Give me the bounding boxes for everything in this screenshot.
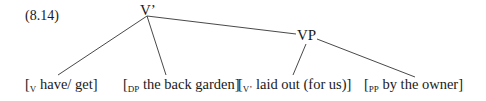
leaf-pp: [PP by the owner] xyxy=(364,77,463,94)
label-dp: DP xyxy=(128,84,140,94)
leaf-v-bar: [V’ laid out (for us)] xyxy=(238,77,351,94)
edge-vbar-v xyxy=(58,16,147,75)
edge-vp-pp xyxy=(317,39,415,77)
edge-vp-vbar2 xyxy=(293,44,306,75)
edge-vbar-dp xyxy=(147,16,166,75)
edge-vbar-vp xyxy=(147,16,296,34)
label-pp: PP xyxy=(369,84,379,94)
label-v-bar: V’ xyxy=(243,84,253,94)
leaf-dp: [DP the back garden] xyxy=(123,77,240,94)
leaf-v: [V have/ get] xyxy=(25,77,98,94)
